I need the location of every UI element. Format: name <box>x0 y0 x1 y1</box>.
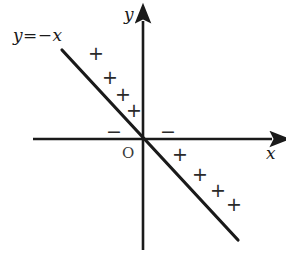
plus-sign-mark: + <box>88 44 104 63</box>
y-axis-label: y <box>124 6 134 23</box>
x-axis-label: x <box>266 145 276 162</box>
minus-sign-mark: − <box>160 122 176 141</box>
plus-sign-mark: + <box>172 145 188 164</box>
plus-sign-mark: + <box>210 181 226 200</box>
plus-sign-mark: + <box>126 101 142 120</box>
origin-label: O <box>122 146 134 161</box>
minus-sign-mark: − <box>106 122 122 141</box>
plus-sign-mark: + <box>192 165 208 184</box>
coordinate-plane-figure: y=−x y x O + + + + + + + + − − <box>0 0 286 263</box>
line-y-equals-negative-x <box>62 50 238 240</box>
line-equation-label: y=−x <box>13 27 63 44</box>
plus-sign-mark: + <box>226 195 242 214</box>
